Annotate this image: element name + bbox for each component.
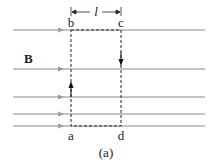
arrow-right-icon	[58, 124, 64, 129]
arrow-right-icon	[58, 112, 64, 117]
corner-label-b: b	[68, 15, 75, 30]
figure-caption: (a)	[99, 145, 113, 160]
corner-label-d: d	[118, 128, 125, 143]
current-loop	[71, 30, 121, 126]
field-arrow-icons	[58, 28, 64, 129]
arrow-right-icon	[58, 95, 64, 100]
arrow-right-icon	[58, 67, 64, 72]
field-lines	[13, 30, 205, 126]
corner-label-c: c	[118, 15, 124, 30]
corner-label-a: a	[68, 128, 74, 143]
loop-in-field-diagram: l b c a d B (a)	[0, 0, 217, 165]
arrow-right-icon	[58, 28, 64, 33]
field-label: B	[24, 51, 33, 66]
width-label: l	[94, 4, 98, 19]
